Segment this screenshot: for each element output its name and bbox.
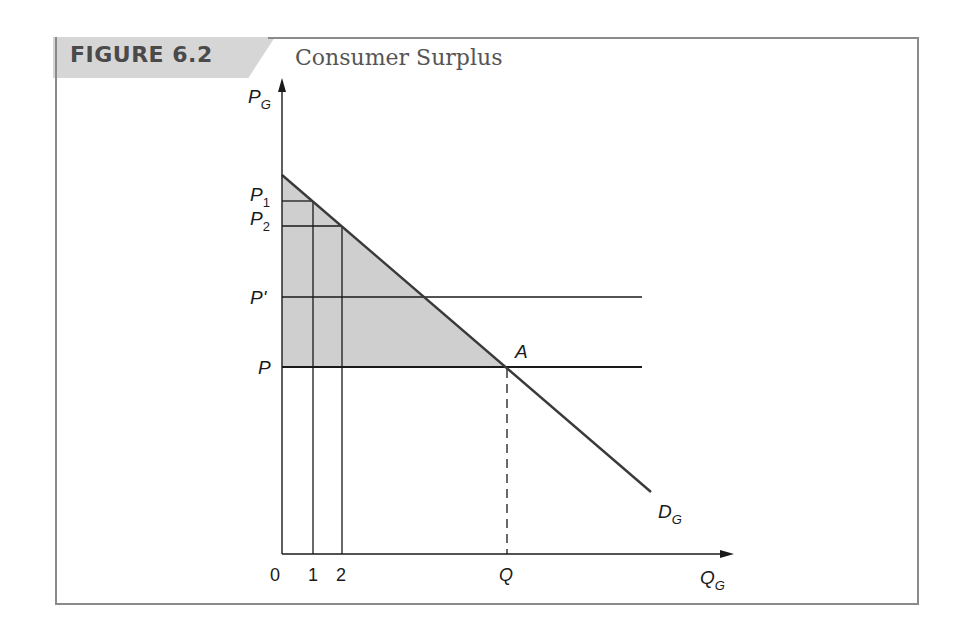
y-axis-label: PG <box>248 86 271 112</box>
p1-label: P1 <box>250 184 270 210</box>
point-a-label: A <box>514 341 528 362</box>
x-axis-label: QG <box>700 567 725 593</box>
demand-label: DG <box>658 501 682 527</box>
p2-label: P2 <box>250 208 270 234</box>
x-axis-arrow-icon <box>720 550 734 558</box>
p-label: P <box>258 357 271 378</box>
consumer-surplus-chart: PG QG P1 P2 P' P 0 1 2 Q A DG <box>0 0 963 637</box>
tick-q-label: Q <box>499 565 513 585</box>
tick-2-label: 2 <box>336 565 346 585</box>
y-axis-arrow-icon <box>278 78 286 92</box>
tick-1-label: 1 <box>308 565 318 585</box>
p-prime-label: P' <box>250 287 268 308</box>
tick-0-label: 0 <box>270 565 280 585</box>
